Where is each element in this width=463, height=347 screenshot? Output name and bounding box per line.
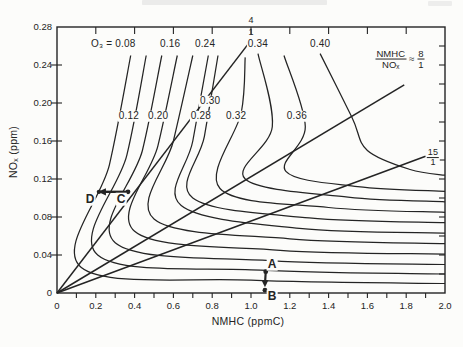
- x-tick-label-1.8: 1.8: [400, 301, 413, 311]
- y-axis-title: NOₓ (ppm): [8, 126, 19, 178]
- y-tick-label-0.20: 0.20: [34, 98, 53, 108]
- ratio-line-15-1: [57, 156, 426, 293]
- y-tick-label-0.24: 0.24: [34, 60, 53, 70]
- y-tick-label-0.12: 0.12: [34, 174, 53, 184]
- x-tick-label-1.2: 1.2: [283, 301, 296, 311]
- x-tick-label-1.4: 1.4: [322, 301, 335, 311]
- point-label-D: D: [85, 193, 96, 206]
- point-label-B: B: [267, 290, 278, 303]
- point-label-C: C: [116, 193, 127, 206]
- isopleth-curve-0.32: [216, 57, 445, 212]
- isopleth-label-0.32: 0.32: [225, 111, 247, 122]
- point-dot-D: [97, 190, 101, 194]
- approx-symbol: ≈: [409, 54, 414, 64]
- x-tick-label-0.4: 0.4: [128, 301, 141, 311]
- ratio-label-nmhc-nox-8-1: NMHCNOₓ≈81: [374, 49, 425, 70]
- isopleth-label-0.28: 0.28: [190, 111, 212, 122]
- nmhc-nox-fraction: NMHCNOₓ: [375, 49, 406, 70]
- isopleth-label-0.24: 0.24: [194, 39, 216, 50]
- ratio-value-fraction: 81: [417, 49, 424, 70]
- x-tick-label-1.0: 1.0: [244, 301, 257, 311]
- ratio-label-4-1: 41: [248, 16, 253, 38]
- scanned-figure-page: NOₓ (ppm) NMHC (ppmC) 00.20.40.60.81.01.…: [0, 0, 463, 347]
- y-tick-label-0.04: 0.04: [34, 250, 53, 260]
- x-tick-label-0.8: 0.8: [206, 301, 219, 311]
- x-tick-label-0: 0: [54, 301, 59, 311]
- fraction-numerator: 4: [248, 16, 253, 25]
- ratio-label-15-1: 151: [426, 148, 440, 168]
- isopleth-label-0.16: 0.16: [159, 39, 181, 50]
- x-tick-label-1.6: 1.6: [361, 301, 374, 311]
- x-tick-label-0.6: 0.6: [167, 301, 180, 311]
- isopleth-curve-0.34: [243, 54, 445, 202]
- x-tick-label-0.2: 0.2: [89, 301, 102, 311]
- x-tick-label-2.0: 2.0: [438, 301, 451, 311]
- fraction-denominator: 1: [430, 159, 435, 168]
- isopleth-label-0.3: 0.30: [199, 96, 221, 107]
- point-label-A: A: [267, 258, 278, 271]
- arrowhead-down: [262, 280, 269, 287]
- isopleth-label-0.34: 0.34: [247, 39, 269, 50]
- fraction-denominator: NOₓ: [382, 60, 399, 70]
- fraction-denominator: 1: [248, 29, 253, 38]
- y-tick-label-0.16: 0.16: [34, 136, 53, 146]
- fraction-denominator: 1: [418, 60, 423, 70]
- isopleth-curve-0.36: [284, 56, 445, 192]
- y-tick-label-0: 0: [47, 288, 52, 298]
- isopleth-label-0.2: 0.20: [147, 111, 169, 122]
- x-axis-title: NMHC (ppmC): [212, 316, 285, 327]
- isopleth-label-0.08: O₃ = 0.08: [90, 39, 137, 50]
- y-tick-label-0.08: 0.08: [34, 212, 53, 222]
- isopleth-label-0.12: 0.12: [118, 111, 140, 122]
- isopleth-label-0.4: 0.40: [309, 39, 331, 50]
- ratio-line-4-1: [57, 44, 248, 293]
- y-tick-label-0.28: 0.28: [34, 22, 53, 32]
- isopleth-label-0.36: 0.36: [286, 111, 308, 122]
